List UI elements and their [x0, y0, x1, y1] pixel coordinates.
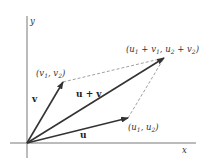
- vector-addition-diagram: x y u v u + v (u1, u2) (v1, v2) (u1 + v1…: [0, 0, 204, 166]
- dashed-side-right: [128, 58, 164, 118]
- v-tip-label: (v1, v2): [36, 68, 65, 79]
- x-axis-label: x: [182, 145, 187, 155]
- dashed-side-top: [63, 58, 164, 82]
- vector-v: [27, 82, 63, 143]
- y-axis-label: y: [29, 16, 35, 26]
- vector-u-label: u: [80, 130, 87, 140]
- vector-v-label: v: [31, 94, 38, 104]
- vector-u: [27, 118, 128, 143]
- u-tip-label: (u1, u2): [128, 122, 159, 133]
- vector-u-plus-v-label: u + v: [76, 89, 102, 99]
- u-plus-v-tip-label: (u1 + v1, u2 + v2): [126, 44, 199, 55]
